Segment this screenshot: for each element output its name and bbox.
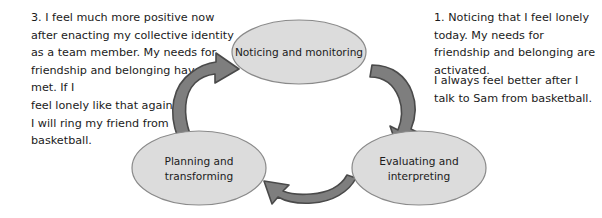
arrow-evaluating-to-planning xyxy=(264,175,356,204)
node-evaluating-label-line1: Evaluating and xyxy=(379,155,458,167)
arrow-planning-to-noticing xyxy=(173,53,239,138)
node-evaluating-and-interpreting[interactable]: Evaluating and interpreting xyxy=(352,131,486,205)
node-noticing-and-monitoring[interactable]: Noticing and monitoring xyxy=(232,20,366,84)
node-planning-ellipse xyxy=(132,131,266,205)
node-planning-label-line2: transforming xyxy=(165,170,233,182)
node-planning-and-transforming[interactable]: Planning and transforming xyxy=(132,131,266,205)
node-planning-label-line1: Planning and xyxy=(165,155,234,167)
node-evaluating-label-line2: interpreting xyxy=(388,170,451,182)
node-evaluating-ellipse xyxy=(352,131,486,205)
node-noticing-label: Noticing and monitoring xyxy=(235,46,363,58)
diagram-canvas: 3. I feel much more positive now after e… xyxy=(0,0,602,218)
cycle-diagram: Noticing and monitoring Evaluating and i… xyxy=(0,0,602,218)
